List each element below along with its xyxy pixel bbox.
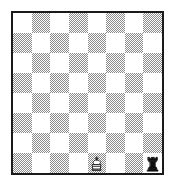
- board-square-a2[interactable]: [13, 133, 32, 153]
- board-square-e2[interactable]: [88, 133, 107, 153]
- board-square-c5[interactable]: [50, 73, 69, 93]
- board-square-h7[interactable]: [143, 33, 162, 53]
- board-square-g4[interactable]: [125, 93, 144, 113]
- board-square-b7[interactable]: [32, 33, 51, 53]
- board-square-g2[interactable]: [125, 133, 144, 153]
- board-square-h6[interactable]: [143, 53, 162, 73]
- board-square-h5[interactable]: [143, 73, 162, 93]
- board-square-f5[interactable]: [106, 73, 125, 93]
- chess-diagram: [0, 0, 175, 186]
- chess-board-grid: [13, 13, 162, 173]
- board-square-a1[interactable]: [13, 153, 32, 173]
- board-square-e7[interactable]: [88, 33, 107, 53]
- board-square-c3[interactable]: [50, 113, 69, 133]
- board-square-f6[interactable]: [106, 53, 125, 73]
- board-square-a3[interactable]: [13, 113, 32, 133]
- board-square-e6[interactable]: [88, 53, 107, 73]
- board-square-b3[interactable]: [32, 113, 51, 133]
- board-square-g3[interactable]: [125, 113, 144, 133]
- board-square-a6[interactable]: [13, 53, 32, 73]
- white-king-icon[interactable]: [88, 153, 107, 173]
- board-square-b1[interactable]: [32, 153, 51, 173]
- board-square-b5[interactable]: [32, 73, 51, 93]
- board-square-e5[interactable]: [88, 73, 107, 93]
- black-rook-icon[interactable]: [143, 153, 162, 173]
- board-square-a7[interactable]: [13, 33, 32, 53]
- board-square-a4[interactable]: [13, 93, 32, 113]
- board-square-f8[interactable]: [106, 13, 125, 33]
- chess-board-frame: [11, 11, 164, 175]
- board-square-d6[interactable]: [69, 53, 88, 73]
- board-square-c4[interactable]: [50, 93, 69, 113]
- board-square-f3[interactable]: [106, 113, 125, 133]
- board-square-g8[interactable]: [125, 13, 144, 33]
- board-square-d7[interactable]: [69, 33, 88, 53]
- board-square-d2[interactable]: [69, 133, 88, 153]
- board-square-e1[interactable]: [88, 153, 107, 173]
- board-square-a5[interactable]: [13, 73, 32, 93]
- board-square-b2[interactable]: [32, 133, 51, 153]
- board-square-h1[interactable]: [143, 153, 162, 173]
- board-square-c7[interactable]: [50, 33, 69, 53]
- board-square-a8[interactable]: [13, 13, 32, 33]
- board-square-b8[interactable]: [32, 13, 51, 33]
- board-square-e4[interactable]: [88, 93, 107, 113]
- board-square-c6[interactable]: [50, 53, 69, 73]
- board-square-b6[interactable]: [32, 53, 51, 73]
- board-square-f1[interactable]: [106, 153, 125, 173]
- board-square-f4[interactable]: [106, 93, 125, 113]
- board-square-c2[interactable]: [50, 133, 69, 153]
- board-square-f2[interactable]: [106, 133, 125, 153]
- board-square-d4[interactable]: [69, 93, 88, 113]
- board-square-h4[interactable]: [143, 93, 162, 113]
- board-square-b4[interactable]: [32, 93, 51, 113]
- board-square-e3[interactable]: [88, 113, 107, 133]
- board-square-f7[interactable]: [106, 33, 125, 53]
- board-square-g6[interactable]: [125, 53, 144, 73]
- board-square-h2[interactable]: [143, 133, 162, 153]
- board-square-g7[interactable]: [125, 33, 144, 53]
- board-square-g1[interactable]: [125, 153, 144, 173]
- board-square-c1[interactable]: [50, 153, 69, 173]
- board-square-g5[interactable]: [125, 73, 144, 93]
- board-square-d3[interactable]: [69, 113, 88, 133]
- board-square-d8[interactable]: [69, 13, 88, 33]
- board-square-h3[interactable]: [143, 113, 162, 133]
- board-square-d5[interactable]: [69, 73, 88, 93]
- board-square-d1[interactable]: [69, 153, 88, 173]
- board-square-e8[interactable]: [88, 13, 107, 33]
- board-square-h8[interactable]: [143, 13, 162, 33]
- board-square-c8[interactable]: [50, 13, 69, 33]
